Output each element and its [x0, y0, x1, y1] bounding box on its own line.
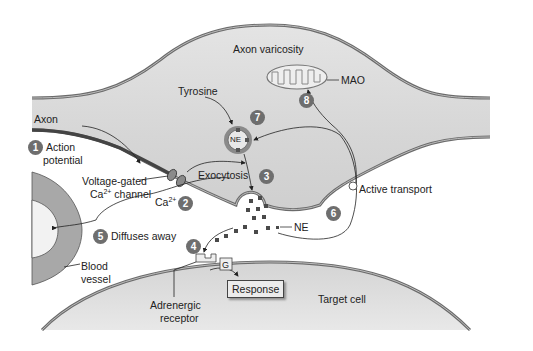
step-badge-7: 7 [250, 110, 265, 125]
response-box: Response [227, 280, 284, 298]
label-receptor: receptor [160, 312, 199, 324]
transporter-icon [349, 182, 357, 190]
label-ne-vesicle: NE [230, 134, 241, 146]
label-action: Action [46, 141, 75, 153]
label-g-protein: G [222, 259, 229, 271]
step-badge-2: 2 [178, 196, 193, 211]
step-badge-3: 3 [259, 169, 274, 184]
label-adrenergic: Adrenergic [150, 299, 201, 311]
step-badge-5: 5 [93, 229, 108, 244]
blood-vessel-shape [32, 172, 82, 285]
label-ne: NE [294, 221, 309, 233]
label-axon: Axon [34, 113, 58, 125]
label-potential: potential [43, 154, 83, 166]
diagram-canvas: Axon varicosity Axon Tyrosine MAO NE Act… [0, 0, 533, 351]
label-exocytosis: Exocytosis [198, 169, 248, 181]
label-voltage-gated: Voltage-gated [82, 175, 147, 187]
label-ca-channel: Ca2+ channel [90, 188, 151, 200]
label-blood: Blood [81, 260, 108, 272]
step-badge-6: 6 [326, 206, 341, 221]
label-vessel: vessel [81, 273, 111, 285]
label-axon-varicosity: Axon varicosity [233, 43, 304, 55]
label-diffuses-away: Diffuses away [111, 230, 176, 242]
label-mao: MAO [341, 74, 365, 86]
step-badge-1: 1 [28, 140, 43, 155]
label-tyrosine: Tyrosine [178, 85, 218, 97]
label-target-cell: Target cell [318, 293, 366, 305]
step-badge-8: 8 [299, 93, 314, 108]
label-active-transport: Active transport [359, 183, 432, 195]
label-ca-ion: Ca2+ [155, 196, 176, 208]
step-badge-4: 4 [186, 239, 201, 254]
